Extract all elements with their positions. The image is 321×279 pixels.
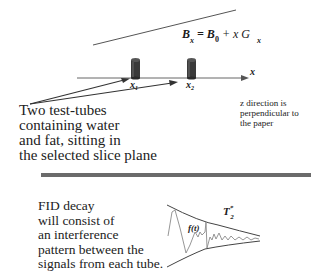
tube-2-sub: 2 (191, 85, 194, 91)
eq-equals: = (197, 27, 204, 41)
fid-line: pattern between the (38, 243, 163, 258)
tube-2-label: x2 (186, 79, 194, 90)
test-tube-2 (187, 58, 196, 80)
t2-sup: * (230, 204, 234, 212)
fid-line: FID decay (38, 199, 163, 214)
section-divider (41, 173, 311, 177)
caption-line: the selected slice plane (19, 148, 157, 163)
x-axis-arrowhead (241, 75, 249, 81)
field-equation: Bx = B0 + x G x (182, 27, 261, 42)
eq-b0-sub: 0 (215, 35, 219, 44)
fid-line: signals from each tube. (38, 257, 163, 272)
fid-plot (167, 205, 260, 267)
eq-b-sub: x (190, 36, 194, 45)
fid-description: FID decay will consist of an interferenc… (38, 199, 163, 272)
test-tube-1 (131, 58, 140, 80)
t2-sub: 2 (230, 213, 234, 221)
note-line: perpendicular to (240, 108, 299, 118)
ft-label: f(t) (188, 223, 200, 233)
note-line: the paper (240, 118, 299, 128)
caption-line: and fat, sitting in (19, 133, 157, 148)
tube-1-label: x1 (130, 79, 138, 90)
caption-line: containing water (19, 118, 157, 133)
eq-g-sub: x (257, 36, 261, 45)
x-axis-label: x (250, 66, 255, 77)
eq-b0: B (207, 27, 215, 41)
caption-line: Two test-tubes (19, 103, 157, 118)
fid-line: will consist of (38, 214, 163, 229)
eq-b: B (182, 27, 190, 41)
z-direction-note: z direction is perpendicular to the pape… (240, 98, 299, 128)
t2-star-label: T*2 (223, 205, 234, 217)
fid-line: an interference (38, 228, 163, 243)
note-line: z direction is (240, 98, 299, 108)
tube-1-sub: 1 (135, 85, 138, 91)
eq-plus-xg: + x G (222, 27, 250, 41)
tubes-caption: Two test-tubes containing water and fat,… (19, 103, 157, 163)
t2-var: T (223, 205, 230, 217)
